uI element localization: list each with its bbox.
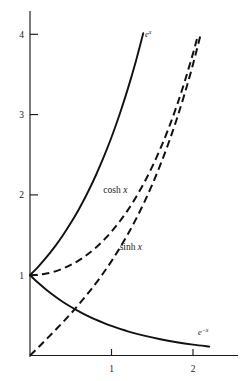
y-tick-label-2: 2 xyxy=(19,190,24,200)
curve-label-group: excosh xsinh xe−x xyxy=(103,29,208,338)
y-axis-tick-labels: 1234 xyxy=(19,30,24,281)
x-tick-label-2: 2 xyxy=(191,364,196,374)
curve-e-x xyxy=(30,33,143,275)
x-tick-label-1: 1 xyxy=(109,364,114,374)
curve-label-e-x: ex xyxy=(145,29,152,39)
figure-container: 1234 12 excosh xsinh xe−x xyxy=(0,0,247,381)
curve-cosh-x xyxy=(30,39,197,276)
y-tick-label-1: 1 xyxy=(19,271,24,281)
y-axis-ticks xyxy=(30,34,38,275)
y-tick-label-3: 3 xyxy=(19,110,24,120)
y-tick-label-4: 4 xyxy=(19,30,24,40)
curve-label-e--x: e−x xyxy=(198,327,209,337)
x-axis-tick-labels: 12 xyxy=(109,364,196,374)
hyperbolic-functions-plot: 1234 12 excosh xsinh xe−x xyxy=(0,0,247,381)
curve-label-sinh-x: sinh x xyxy=(120,242,143,252)
curve-e--x xyxy=(30,275,209,346)
curve-label-cosh-x: cosh x xyxy=(103,185,128,195)
